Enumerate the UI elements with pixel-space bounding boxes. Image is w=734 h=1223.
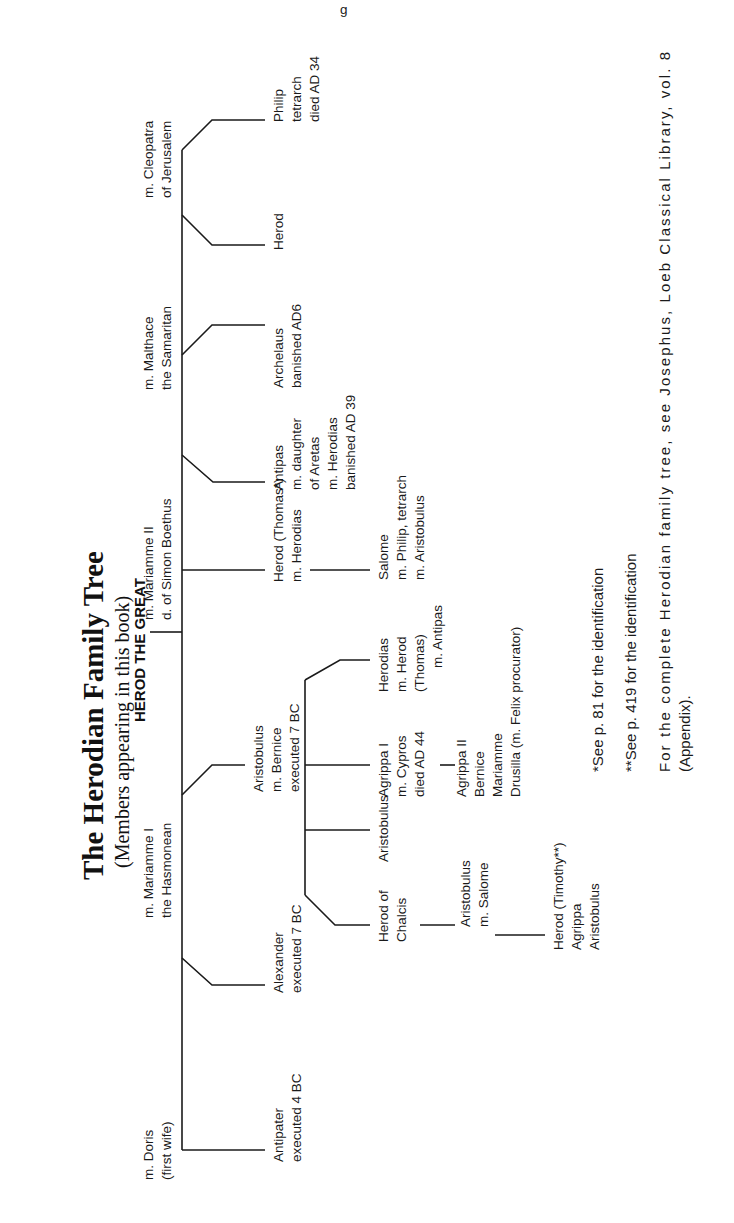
great-grandchildren-labels: Aristobulus m. Salome Agrippa II Bernice… <box>454 627 602 950</box>
grandchild-herodias-name: Herodias <box>376 638 391 692</box>
ggchild-agrippa-ii: Agrippa II <box>454 739 469 797</box>
grandchild-herodias-spouse2: m. Antipas <box>430 605 445 668</box>
grandchild-herodias-spouse1-alias: (Thomas) <box>412 634 427 692</box>
footnote-3-line1: For the complete Herodian family tree, s… <box>656 52 673 772</box>
wife-malthace-line2: the Samaritan <box>159 306 174 390</box>
child-philip-name: Philip <box>271 89 286 122</box>
child-antipas-name: Antipas <box>271 445 286 490</box>
child-alexander-name: Alexander <box>271 932 286 993</box>
grandchild-aristobulus: Aristobulus <box>376 795 391 862</box>
footnote-2: **See p. 419 for the identification <box>622 554 639 772</box>
grandchild-salome-name: Salome <box>376 534 391 580</box>
family-tree-page: g The Herodian Family Tree (Members appe… <box>0 0 734 1223</box>
tree-connectors <box>150 120 545 1150</box>
wife-doris-line2: (first wife) <box>159 1122 174 1181</box>
grandchild-agrippa-i-note: died AD 44 <box>412 730 427 797</box>
child-aristobulus-name: Aristobulus <box>251 725 266 792</box>
grandchild-herod-of-chalcis-line2: Chalcis <box>394 897 409 942</box>
child-antipas-line3: of Aretas <box>307 436 322 490</box>
branch-herod-of-chalcis <box>305 895 370 925</box>
branch-antipas <box>182 455 265 482</box>
child-antipas-line5: banished AD 39 <box>343 395 358 490</box>
child-archelaus-name: Archelaus <box>271 328 286 388</box>
child-antipater-name: Antipater <box>271 1107 286 1162</box>
ggchild-aristobulus-name: Aristobulus <box>458 860 473 927</box>
grandchild-herod-of-chalcis-line1: Herod of <box>376 890 391 942</box>
wife-cleopatra-line1: m. Cleopatra <box>141 120 156 198</box>
grandchild-herodias-spouse1: m. Herod <box>394 636 409 692</box>
child-herod-name: Herod <box>271 213 286 250</box>
gggchild-aristobulus: Aristobulus <box>587 883 602 950</box>
child-herod-thomas-spouse: m. Herodias <box>289 509 304 582</box>
child-philip-line3: died AD 34 <box>307 55 322 122</box>
branch-archelaus <box>182 325 265 355</box>
child-antipas-line2: m. daughter <box>289 417 304 490</box>
grandchild-salome-spouse2: m. Aristobulus <box>412 495 427 580</box>
children-labels: Antipater executed 4 BC Alexander execut… <box>251 55 358 1162</box>
grandchild-agrippa-i-spouse: m. Cypros <box>394 735 409 797</box>
ggchild-drusilla: Drusilla (m. Felix procurator) <box>508 627 523 797</box>
child-philip-line2: tetrarch <box>289 76 304 122</box>
branch-philip <box>182 120 265 150</box>
gggchild-agrippa: Agrippa <box>569 903 584 950</box>
page-title: The Herodian Family Tree <box>77 551 109 880</box>
branch-herod <box>182 215 265 245</box>
child-antipater-note: executed 4 BC <box>289 1073 304 1162</box>
wife-cleopatra-line2: of Jerusalem <box>159 121 174 198</box>
wife-mariamme-ii-line1: m. Mariamme II <box>141 526 156 620</box>
grandchild-agrippa-i-name: Agrippa I <box>376 743 391 797</box>
footnote-1: *See p. 81 for the identification <box>589 568 606 772</box>
wife-malthace-line1: m. Malthace <box>141 316 156 390</box>
child-herod-thomas-name: Herod (Thomas*) <box>271 478 286 582</box>
footnote-3-line2: (Appendix). <box>676 695 693 772</box>
child-aristobulus-note: executed 7 BC <box>287 703 302 792</box>
wife-doris-line1: m. Doris <box>141 1130 156 1180</box>
child-aristobulus-spouse: m. Bernice <box>269 727 284 792</box>
gggchild-herod-timothy: Herod (Timothy**) <box>551 842 566 950</box>
branch-alexander <box>182 958 265 985</box>
grandchildren-labels: Herod of Chalcis Aristobulus Agrippa I m… <box>376 475 445 942</box>
ggchild-mariamme: Mariamme <box>490 733 505 797</box>
grandchild-salome-spouse1: m. Philip, tetrarch <box>394 475 409 580</box>
child-antipas-line4: m. Herodias <box>325 417 340 490</box>
wife-mariamme-i-line2: the Hasmonean <box>159 823 174 918</box>
footnotes: *See p. 81 for the identification **See … <box>589 52 693 772</box>
wife-mariamme-ii-line2: d. of Simon Boethus <box>159 498 174 620</box>
child-alexander-note: executed 7 BC <box>289 904 304 993</box>
branch-herodias <box>305 660 370 680</box>
running-head-fragment: g <box>340 2 348 17</box>
ggchild-aristobulus-spouse: m. Salome <box>476 862 491 927</box>
family-tree-diagram: g The Herodian Family Tree (Members appe… <box>0 0 734 1223</box>
child-archelaus-note: banished AD6 <box>289 304 304 388</box>
ggchild-bernice: Bernice <box>472 751 487 797</box>
branch-aristobulus <box>182 765 245 795</box>
wife-mariamme-i-line1: m. Mariamme I <box>141 828 156 918</box>
